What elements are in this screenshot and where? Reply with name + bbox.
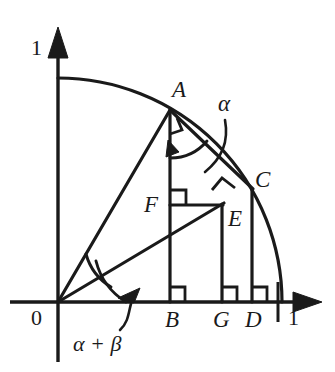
angle-label-alpha-plus-beta: α + β: [73, 333, 121, 355]
x-axis-unit-label: 1: [288, 307, 299, 329]
point-label-A: A: [172, 78, 186, 101]
right-angle-at-G: [222, 287, 237, 302]
point-label-C: C: [255, 168, 270, 191]
right-angle-at-E: [212, 178, 235, 190]
y-axis-unit-label: 1: [31, 37, 42, 59]
alpha-arc-arrowhead: [166, 140, 179, 157]
origin-label: 0: [31, 307, 42, 329]
point-label-B: B: [165, 308, 179, 331]
point-label-F: F: [144, 193, 158, 216]
y-axis-arrowhead: [48, 27, 68, 58]
point-label-D: D: [245, 308, 262, 331]
segment-OE: [58, 203, 224, 302]
segment-AC: [170, 110, 253, 189]
point-label-G: G: [213, 308, 230, 331]
right-angle-at-D: [252, 287, 267, 302]
geometry-figure: 1 0 1 A B C D E F G α α + β: [0, 0, 335, 372]
point-label-E: E: [228, 207, 242, 230]
right-angle-at-F: [170, 190, 186, 205]
angle-arc-outer-at-origin: [96, 261, 126, 302]
angle-label-alpha: α: [218, 92, 230, 115]
axes-group: [10, 36, 312, 362]
right-angle-at-B: [170, 287, 185, 302]
